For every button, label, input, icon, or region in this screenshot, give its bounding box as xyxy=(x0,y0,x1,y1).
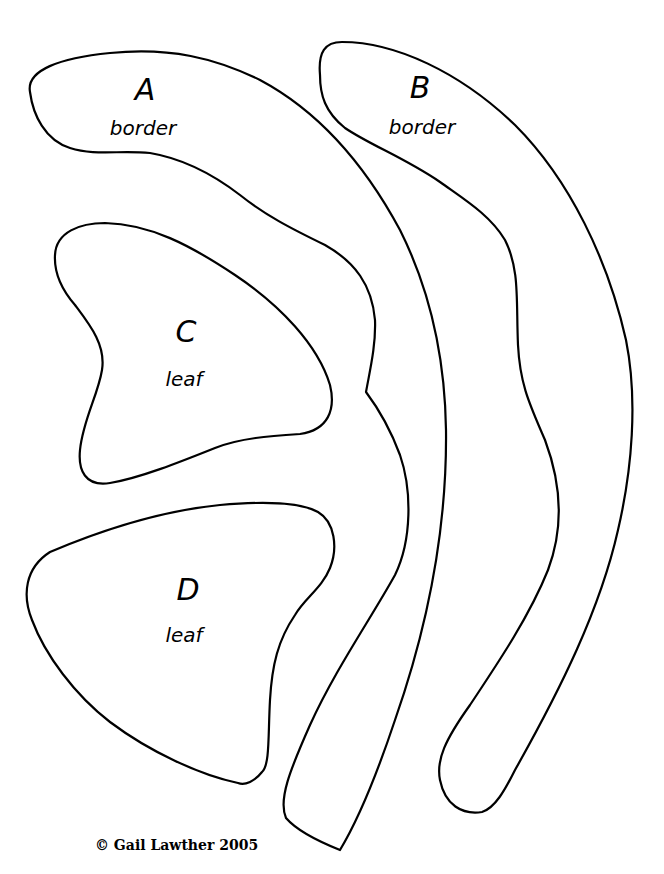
piece-c-label: leaf xyxy=(165,367,205,391)
piece-c-outline xyxy=(55,223,332,484)
piece-d-label: leaf xyxy=(165,623,205,647)
piece-b-letter: B xyxy=(410,70,431,105)
piece-b-label: border xyxy=(389,115,457,139)
copyright-text: © Gail Lawther 2005 xyxy=(95,837,258,853)
piece-a-letter: A xyxy=(133,72,156,107)
piece-c: C leaf xyxy=(55,223,332,484)
pattern-sheet: A border B border C leaf D leaf xyxy=(0,0,664,874)
piece-d: D leaf xyxy=(27,503,335,784)
piece-d-letter: D xyxy=(176,572,199,607)
piece-a-label: border xyxy=(110,116,178,140)
piece-c-letter: C xyxy=(176,314,197,349)
